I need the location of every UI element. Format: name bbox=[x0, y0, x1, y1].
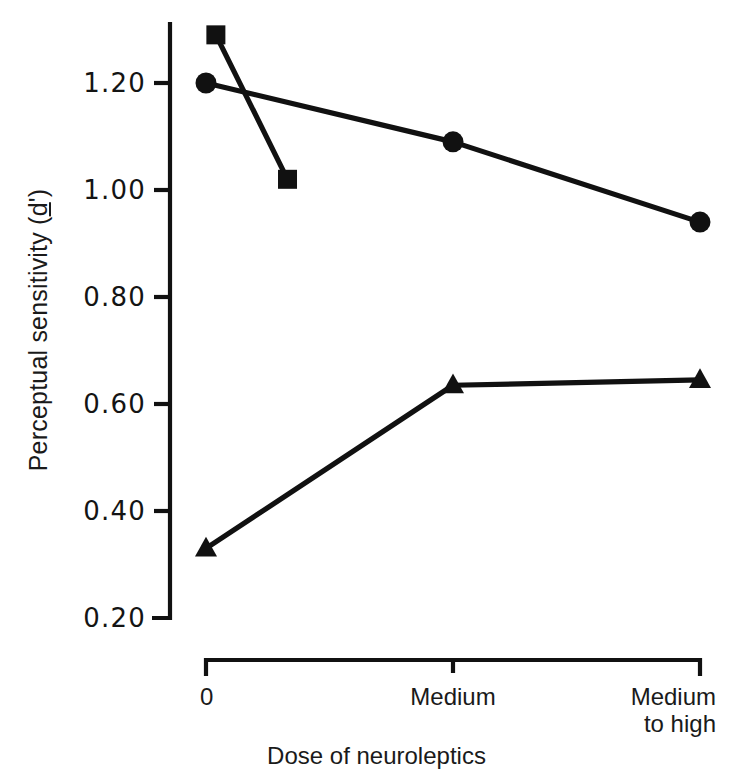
x-axis bbox=[206, 660, 700, 676]
data-point-square bbox=[278, 170, 297, 189]
series-triangle bbox=[195, 368, 711, 556]
data-point-circle bbox=[196, 73, 217, 94]
plot-area bbox=[0, 0, 753, 784]
y-axis bbox=[152, 22, 170, 618]
data-series-layer bbox=[195, 25, 711, 556]
series-square bbox=[206, 25, 297, 188]
chart-figure: Perceptual sensitivity (d') 1.201.000.80… bbox=[0, 0, 753, 784]
series-line bbox=[216, 35, 288, 179]
y-axis-ticks bbox=[154, 83, 170, 511]
data-point-triangle bbox=[195, 537, 217, 557]
data-point-square bbox=[206, 25, 225, 44]
series-line bbox=[206, 380, 700, 549]
series-line bbox=[206, 83, 700, 222]
data-point-circle bbox=[690, 212, 711, 233]
data-point-circle bbox=[443, 131, 464, 152]
